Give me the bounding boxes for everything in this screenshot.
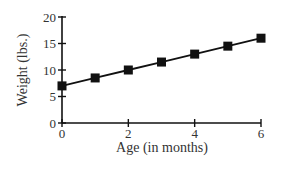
x-tick-label: 4	[191, 126, 198, 141]
data-point-square-icon	[223, 42, 232, 51]
x-axis-title: Age (in months)	[116, 140, 208, 156]
x-tick-label: 2	[125, 126, 132, 141]
x-axis: 0246	[59, 119, 265, 141]
data-point-square-icon	[124, 66, 133, 75]
y-axis-title: Weight (lbs.)	[15, 33, 31, 106]
y-tick-label: 5	[50, 89, 57, 104]
y-axis: 05101520	[43, 10, 66, 131]
y-tick-label: 10	[43, 63, 56, 78]
data-point-square-icon	[91, 73, 100, 82]
data-series	[58, 34, 266, 91]
data-point-square-icon	[257, 34, 266, 43]
x-tick-label: 6	[258, 126, 265, 141]
data-point-square-icon	[190, 50, 199, 59]
data-point-square-icon	[58, 81, 67, 90]
y-tick-label: 15	[43, 36, 56, 51]
data-point-square-icon	[157, 58, 166, 67]
x-tick-label: 0	[59, 126, 66, 141]
y-tick-label: 0	[50, 116, 57, 131]
line-chart: 05101520 0246 Weight (lbs.) Age (in mont…	[0, 0, 284, 169]
y-tick-label: 20	[43, 10, 56, 25]
